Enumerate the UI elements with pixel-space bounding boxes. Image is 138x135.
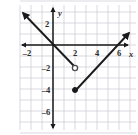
x-tick-label-2: 2 — [73, 48, 77, 58]
x-tick-label-6: 6 — [117, 48, 121, 58]
graph-background — [0, 0, 138, 135]
y-tick-label-neg4: –4 — [41, 85, 51, 95]
closed-circle-endpoint — [73, 88, 78, 93]
y-tick-label-neg6: –6 — [41, 107, 51, 117]
x-axis-name-label: x — [128, 49, 134, 59]
coordinate-plane-graph: –2 2 4 6 2 –2 –4 –6 x y — [0, 0, 138, 135]
x-tick-label-neg2: –2 — [22, 48, 32, 58]
y-tick-label-neg2: –2 — [41, 63, 51, 73]
y-tick-label-2: 2 — [45, 19, 49, 29]
open-circle-endpoint — [72, 65, 77, 70]
y-axis-name-label: y — [57, 8, 62, 18]
graph-figure: 3. — [0, 0, 138, 135]
